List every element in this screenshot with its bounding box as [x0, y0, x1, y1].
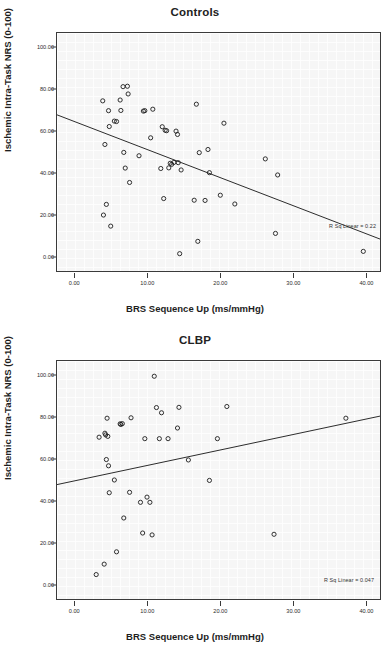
- data-point: [215, 437, 219, 441]
- data-point: [114, 550, 118, 554]
- data-point: [104, 202, 108, 206]
- y-tick-label: 80.00: [0, 414, 54, 420]
- x-tick-mark: [220, 601, 221, 606]
- data-point: [175, 426, 179, 430]
- data-point: [125, 84, 129, 88]
- data-point: [121, 85, 125, 89]
- data-point: [194, 102, 198, 106]
- data-point: [123, 166, 127, 170]
- plot-area-controls: R Sq Linear = 0.22: [56, 32, 381, 272]
- data-point: [119, 108, 123, 112]
- data-point: [167, 166, 171, 170]
- y-tick-label: 100.00: [0, 44, 54, 50]
- x-tick-label: 10.00: [117, 280, 177, 286]
- x-tick-label: 0.00: [44, 608, 104, 614]
- data-point: [103, 142, 107, 146]
- regression-line: [57, 416, 380, 484]
- data-point: [154, 405, 158, 409]
- x-tick-label: 10.00: [117, 608, 177, 614]
- data-point: [157, 437, 161, 441]
- data-point: [179, 168, 183, 172]
- data-point: [137, 154, 141, 158]
- data-point: [107, 124, 111, 128]
- chart-panel-clbp: CLBP Ischemic Intra-Task NRS (0-100) 0.0…: [0, 328, 390, 656]
- x-tick-label: 0.00: [44, 280, 104, 286]
- y-tick-label: 80.00: [0, 86, 54, 92]
- x-tick-mark: [366, 273, 367, 278]
- data-point: [148, 500, 152, 504]
- y-tick-label: 60.00: [0, 456, 54, 462]
- x-tick-mark: [293, 601, 294, 606]
- x-tick-mark: [147, 601, 148, 606]
- data-point: [149, 136, 153, 140]
- data-point: [118, 98, 122, 102]
- data-point: [196, 239, 200, 243]
- data-point: [101, 213, 105, 217]
- data-point: [186, 458, 190, 462]
- data-point: [344, 416, 348, 420]
- y-tick-label: 60.00: [0, 128, 54, 134]
- data-point: [159, 166, 163, 170]
- chart-title-clbp: CLBP: [0, 334, 390, 346]
- data-point: [145, 495, 149, 499]
- x-tick-mark: [293, 273, 294, 278]
- x-tick-mark: [74, 601, 75, 606]
- data-point: [127, 180, 131, 184]
- data-point: [101, 99, 105, 103]
- data-point: [106, 109, 110, 113]
- data-point: [127, 490, 131, 494]
- data-point: [102, 562, 106, 566]
- data-point: [197, 151, 201, 155]
- y-tick-label: 0.00: [0, 254, 54, 260]
- figure-page: Controls Ischemic Intra-Task NRS (0-100)…: [0, 0, 390, 656]
- chart-title-controls: Controls: [0, 6, 390, 18]
- data-point: [112, 478, 116, 482]
- data-point: [141, 531, 145, 535]
- data-point: [160, 125, 164, 129]
- scatter-canvas-controls: [57, 33, 380, 271]
- data-point: [222, 121, 226, 125]
- data-point: [272, 532, 276, 536]
- data-point: [207, 478, 211, 482]
- data-point: [106, 464, 110, 468]
- y-tick-label: 100.00: [0, 372, 54, 378]
- x-tick-label: 20.00: [190, 608, 250, 614]
- data-point: [129, 416, 133, 420]
- data-point: [218, 193, 222, 197]
- data-point: [162, 196, 166, 200]
- data-point: [203, 198, 207, 202]
- data-point: [263, 157, 267, 161]
- x-tick-mark: [74, 273, 75, 278]
- chart-panel-controls: Controls Ischemic Intra-Task NRS (0-100)…: [0, 0, 390, 328]
- data-point: [192, 198, 196, 202]
- data-point: [138, 500, 142, 504]
- data-point: [178, 252, 182, 256]
- data-point: [150, 533, 154, 537]
- regression-line: [57, 115, 380, 239]
- x-tick-label: 40.00: [336, 280, 390, 286]
- x-tick-mark: [366, 601, 367, 606]
- y-tick-label: 20.00: [0, 540, 54, 546]
- rsq-annotation-clbp: R Sq Linear = 0.047: [324, 577, 374, 583]
- data-point: [166, 437, 170, 441]
- data-point: [233, 202, 237, 206]
- x-axis-label-clbp: BRS Sequence Up (ms/mmHg): [0, 631, 390, 642]
- x-tick-label: 20.00: [190, 280, 250, 286]
- y-tick-label: 40.00: [0, 498, 54, 504]
- y-tick-label: 0.00: [0, 582, 54, 588]
- y-tick-label: 20.00: [0, 212, 54, 218]
- data-point: [225, 404, 229, 408]
- data-point: [104, 457, 108, 461]
- data-point: [105, 416, 109, 420]
- data-point: [107, 491, 111, 495]
- data-point: [122, 516, 126, 520]
- data-point: [143, 437, 147, 441]
- data-point: [177, 405, 181, 409]
- data-point: [206, 147, 210, 151]
- x-tick-label: 40.00: [336, 608, 390, 614]
- plot-area-clbp: R Sq Linear = 0.047: [56, 360, 381, 600]
- data-point: [361, 249, 365, 253]
- x-tick-label: 30.00: [263, 280, 323, 286]
- x-tick-mark: [147, 273, 148, 278]
- rsq-annotation-controls: R Sq Linear = 0.22: [329, 223, 376, 229]
